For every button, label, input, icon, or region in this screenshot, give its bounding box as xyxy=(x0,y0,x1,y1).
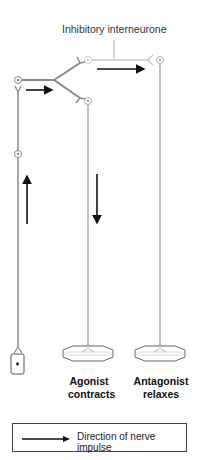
muscle-state: contracts xyxy=(68,388,110,401)
antagonist-muscle-icon xyxy=(135,346,185,361)
interneurone-label: Inhibitory interneurone xyxy=(62,23,166,35)
muscle-state: relaxes xyxy=(133,388,189,401)
sensory-neuron xyxy=(11,77,24,375)
legend-box: Direction of nerve impulse xyxy=(12,423,187,452)
inhibitory-interneurone xyxy=(85,55,154,65)
legend-label: Direction of nerve impulse xyxy=(77,431,186,453)
antagonist-label: Antagonist relaxes xyxy=(133,375,189,401)
relay-axon xyxy=(22,57,86,103)
agonist-label: Agonist contracts xyxy=(68,375,110,401)
antagonist-motor-neuron xyxy=(157,57,164,351)
muscle-name: Agonist xyxy=(68,375,110,388)
arrow-right-icon xyxy=(21,434,71,444)
agonist-motor-neuron xyxy=(85,98,92,351)
muscle-name: Antagonist xyxy=(133,375,189,388)
agonist-muscle-icon xyxy=(63,346,113,361)
